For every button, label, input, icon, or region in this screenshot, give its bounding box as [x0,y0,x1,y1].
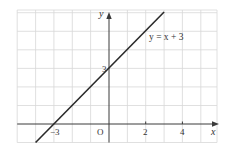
x-axis-label: x [210,126,216,137]
y-tick-label-3: 3 [102,64,107,74]
x-axis [17,122,215,125]
x-tick-label-2: 2 [143,127,148,137]
x-tick-label-neg3: −3 [50,127,60,137]
graph-canvas: y x O −3 2 4 3 y = x + 3 [0,0,229,154]
grid [17,10,217,143]
y-axis-label: y [98,8,104,19]
equation-annotation: y = x + 3 [149,32,184,42]
origin-label: O [97,127,104,137]
x-tick-label-4: 4 [180,127,185,137]
